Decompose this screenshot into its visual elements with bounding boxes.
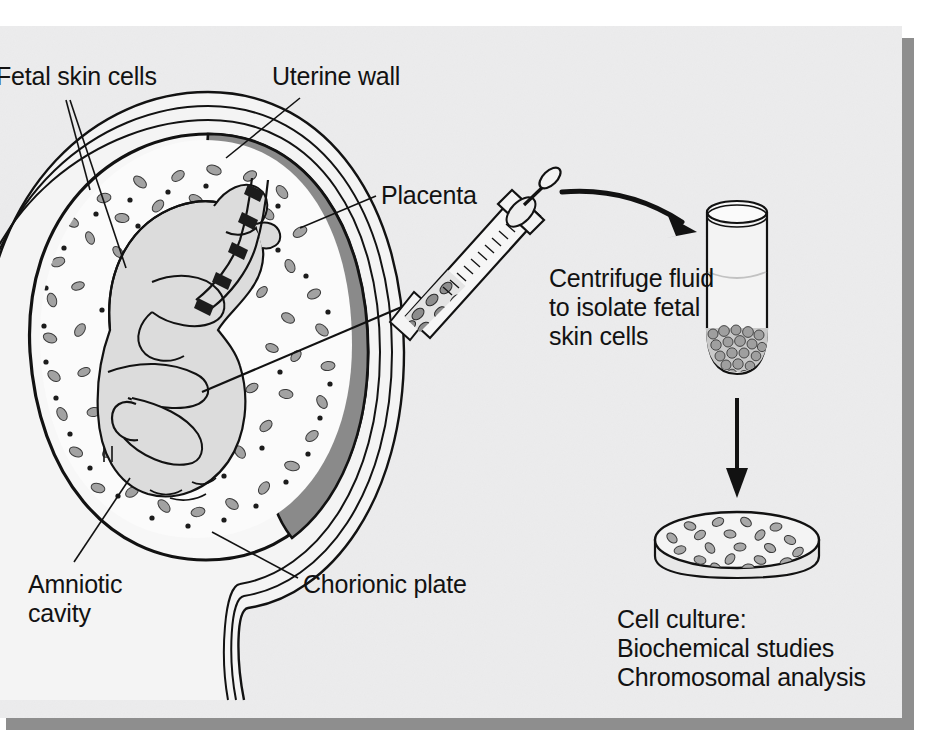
- label-amniotic-cavity: Amniotic cavity: [28, 570, 122, 628]
- label-chorionic-plate: Chorionic plate: [303, 570, 467, 599]
- label-uterine-wall: Uterine wall: [272, 62, 400, 91]
- label-placenta: Placenta: [381, 181, 477, 210]
- test-tube: [706, 201, 768, 387]
- petri-dish: [655, 512, 819, 578]
- label-fetal-skin-cells: Fetal skin cells: [0, 62, 157, 91]
- label-cell-culture-note: Cell culture: Biochemical studies Chromo…: [617, 605, 866, 692]
- label-centrifuge-note: Centrifuge fluid to isolate fetal skin c…: [549, 264, 714, 351]
- figure-root: Fetal skin cells Uterine wall Placenta C…: [0, 0, 934, 740]
